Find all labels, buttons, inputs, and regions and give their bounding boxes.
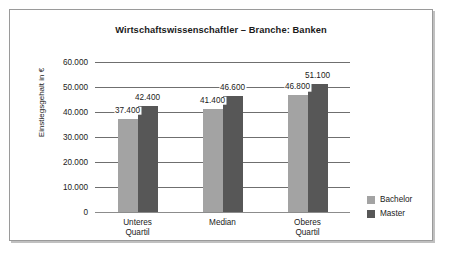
bar-master bbox=[138, 106, 158, 212]
data-label: 42.400 bbox=[134, 94, 161, 103]
y-tick-label: 0 bbox=[83, 208, 88, 217]
data-label: 46.600 bbox=[219, 83, 246, 92]
legend-label: Bachelor bbox=[380, 195, 412, 204]
legend-label: Master bbox=[380, 209, 405, 218]
legend-swatch-icon bbox=[367, 196, 375, 204]
y-tick-label: 30.000 bbox=[63, 133, 88, 142]
data-label: 37.400 bbox=[114, 106, 141, 115]
legend-item: Master bbox=[367, 209, 412, 218]
category-label: Oberes Quartil bbox=[294, 218, 321, 238]
y-tick-label: 10.000 bbox=[63, 183, 88, 192]
category-label: Unteres Quartil bbox=[123, 218, 152, 238]
bar-bachelor bbox=[203, 109, 223, 213]
gridline: 60.000 bbox=[95, 62, 350, 63]
data-label: 41.400 bbox=[199, 96, 226, 105]
y-tick-label: 20.000 bbox=[63, 158, 88, 167]
data-label: 51.100 bbox=[304, 72, 331, 81]
legend-swatch-icon bbox=[367, 210, 375, 218]
y-tick-label: 60.000 bbox=[63, 58, 88, 67]
bar-bachelor bbox=[288, 95, 308, 212]
y-axis-title: Einstiegsgehalt in € bbox=[37, 48, 46, 158]
gridline: 0 bbox=[95, 212, 350, 213]
y-tick-label: 50.000 bbox=[63, 83, 88, 92]
bar-bachelor bbox=[118, 119, 138, 213]
legend-item: Bachelor bbox=[367, 195, 412, 204]
y-tick-label: 40.000 bbox=[63, 108, 88, 117]
chart-title: Wirtschaftswissenschaftler – Branche: Ba… bbox=[10, 25, 432, 35]
plot-area: 010.00020.00030.00040.00050.00060.000 37… bbox=[95, 62, 350, 212]
bar-master bbox=[223, 96, 243, 213]
data-label: 46.800 bbox=[284, 83, 311, 92]
chart-legend: BachelorMaster bbox=[367, 195, 412, 223]
category-label: Median bbox=[209, 218, 236, 228]
bar-master bbox=[308, 84, 328, 212]
chart-frame: Wirtschaftswissenschaftler – Branche: Ba… bbox=[9, 9, 433, 241]
